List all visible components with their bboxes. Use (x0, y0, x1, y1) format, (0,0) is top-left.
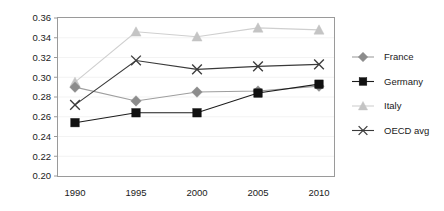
series-line (75, 60, 319, 104)
data-point-marker (70, 100, 80, 110)
legend-item-label: OECD avg (384, 125, 429, 136)
series-oecd-avg (70, 56, 324, 110)
x-axis-tick-label: 1995 (125, 187, 146, 198)
legend-item-label: Germany (384, 76, 423, 87)
line-chart: 0.200.220.240.260.280.300.320.340.36 199… (0, 0, 444, 211)
chart-canvas: 0.200.220.240.260.280.300.320.340.36 199… (0, 0, 444, 211)
x-axis-tick-labels: 19901995200020052010 (64, 187, 329, 198)
data-point-marker (315, 80, 323, 88)
legend-item-label: Italy (384, 100, 402, 111)
data-point-marker (71, 118, 79, 126)
data-point-marker (131, 27, 141, 36)
x-axis-tick-label: 2000 (186, 187, 207, 198)
data-point-marker (193, 109, 201, 117)
legend-marker-icon (359, 78, 367, 86)
data-point-marker (132, 109, 140, 117)
y-axis-tick-label: 0.30 (33, 72, 52, 83)
legend-item-germany[interactable]: Germany (352, 76, 423, 87)
series-plot-group (70, 23, 325, 127)
x-axis-tick-label: 1990 (64, 187, 85, 198)
y-axis-tick-label: 0.22 (33, 151, 52, 162)
y-axis-tick-label: 0.34 (33, 32, 52, 43)
legend-item-oecd-avg[interactable]: OECD avg (352, 125, 429, 136)
y-axis-tick-labels: 0.200.220.240.260.280.300.320.340.36 (33, 12, 52, 181)
grid-lines (58, 38, 334, 157)
legend-item-italy[interactable]: Italy (352, 100, 402, 111)
y-axis-tick-label: 0.20 (33, 170, 52, 181)
y-axis-tick-label: 0.28 (33, 91, 52, 102)
series-france (70, 81, 325, 106)
legend-marker-icon (358, 52, 368, 62)
x-axis-tick-label: 2010 (308, 187, 329, 198)
chart-legend: FranceGermanyItalyOECD avg (352, 51, 429, 135)
data-point-marker (192, 87, 203, 98)
data-point-marker (254, 89, 262, 97)
y-axis-tick-label: 0.24 (33, 131, 52, 142)
y-axis-tick-label: 0.32 (33, 52, 52, 63)
legend-item-label: France (384, 51, 414, 62)
y-axis-tick-label: 0.36 (33, 12, 52, 23)
x-axis-tick-label: 2005 (247, 187, 268, 198)
legend-item-france[interactable]: France (352, 51, 414, 62)
y-axis-tick-label: 0.26 (33, 111, 52, 122)
